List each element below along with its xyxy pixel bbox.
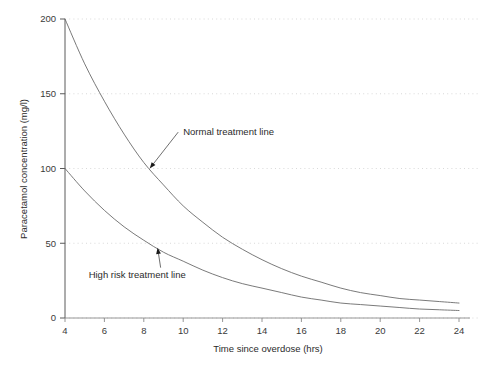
x-axis-title: Time since overdose (hrs)	[213, 343, 322, 354]
x-tick-label-12: 12	[217, 325, 228, 336]
annotation-arrowhead-0	[150, 162, 156, 168]
x-tick-label-24: 24	[454, 325, 465, 336]
annotation-leader-0	[153, 132, 178, 164]
x-tick-label-20: 20	[375, 325, 386, 336]
x-tick-label-22: 22	[414, 325, 425, 336]
annotation-label-0: Normal treatment line	[183, 126, 274, 137]
data-series-group	[65, 19, 459, 311]
x-tick-label-18: 18	[336, 325, 347, 336]
y-tick-label-50: 50	[45, 238, 56, 249]
paracetamol-nomogram-chart: 050100150200 4681012141618202224 Normal …	[0, 0, 487, 371]
x-axis-tick-labels: 4681012141618202224	[62, 325, 464, 336]
series-line-normal-treatment	[65, 19, 459, 303]
x-tick-label-4: 4	[62, 325, 67, 336]
x-tick-label-14: 14	[257, 325, 268, 336]
x-tick-label-8: 8	[141, 325, 146, 336]
annotations-group: Normal treatment lineHigh risk treatment…	[89, 126, 274, 281]
y-axis-tick-labels: 050100150200	[40, 13, 56, 323]
x-axis-ticks	[65, 318, 459, 322]
x-tick-label-16: 16	[296, 325, 307, 336]
y-axis-title: Paracetamol concentration (mg/l)	[18, 99, 29, 239]
annotation-label-1: High risk treatment line	[89, 269, 186, 280]
y-tick-label-0: 0	[51, 312, 56, 323]
y-tick-label-200: 200	[40, 13, 56, 24]
y-tick-label-100: 100	[40, 163, 56, 174]
x-tick-label-6: 6	[102, 325, 107, 336]
chart-container: 050100150200 4681012141618202224 Normal …	[0, 0, 487, 371]
y-tick-label-150: 150	[40, 88, 56, 99]
y-axis-ticks	[60, 19, 65, 318]
x-tick-label-10: 10	[178, 325, 189, 336]
annotation-leader-1	[158, 253, 160, 267]
series-line-high-risk-treatment	[65, 169, 459, 311]
